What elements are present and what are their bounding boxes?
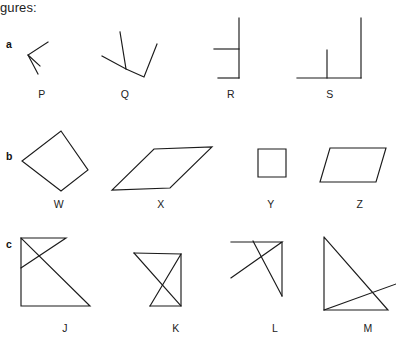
segment bbox=[28, 55, 38, 74]
figure-m bbox=[312, 232, 396, 314]
outline bbox=[22, 131, 88, 191]
figure-y bbox=[256, 147, 292, 183]
outline bbox=[258, 149, 286, 177]
figure-label-m: M bbox=[355, 322, 381, 334]
figure-label-p: P bbox=[29, 88, 55, 100]
figure-label-z: Z bbox=[347, 198, 373, 210]
figure-label-s: S bbox=[317, 88, 343, 100]
figure-label-x: X bbox=[148, 198, 174, 210]
outline bbox=[112, 147, 212, 190]
segment bbox=[253, 241, 282, 296]
segment-chain bbox=[21, 238, 66, 268]
figure-k bbox=[130, 248, 196, 314]
segment-chain bbox=[21, 238, 90, 306]
segment-chain bbox=[126, 44, 157, 77]
row-label-b: b bbox=[6, 150, 13, 162]
figure-q bbox=[98, 22, 162, 82]
figure-label-w: W bbox=[46, 198, 72, 210]
figure-l bbox=[228, 238, 300, 314]
figure-label-l: L bbox=[262, 322, 288, 334]
geometry-worksheet: gures: aPQRSbWXYZcJKLM bbox=[0, 0, 396, 340]
figure-p bbox=[18, 22, 78, 82]
figure-label-y: Y bbox=[258, 198, 284, 210]
segment-chain bbox=[102, 32, 126, 69]
row-label-c: c bbox=[6, 238, 12, 250]
outline bbox=[320, 148, 386, 182]
figure-w bbox=[20, 128, 92, 196]
figure-j bbox=[18, 234, 104, 314]
figure-x bbox=[110, 144, 214, 196]
figure-z bbox=[318, 144, 390, 190]
figure-label-j: J bbox=[52, 322, 78, 334]
figure-label-r: R bbox=[218, 88, 244, 100]
figure-label-k: K bbox=[163, 322, 189, 334]
prompt-text: gures: bbox=[0, 0, 37, 15]
figure-s bbox=[295, 16, 367, 82]
figure-r bbox=[210, 16, 258, 82]
row-label-a: a bbox=[6, 38, 12, 50]
segment-chain bbox=[28, 42, 48, 66]
figure-label-q: Q bbox=[112, 88, 138, 100]
segment bbox=[134, 253, 181, 306]
